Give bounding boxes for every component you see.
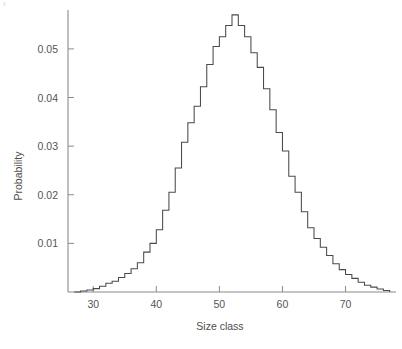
x-axis: 3040506070 Size class	[68, 286, 396, 332]
y-tick-group	[68, 49, 74, 243]
x-tick-label-group: 3040506070	[87, 298, 351, 310]
x-tick-group	[93, 286, 345, 292]
y-tick-label-0.01: 0.01	[38, 237, 59, 249]
x-axis-title: Size class	[196, 320, 243, 332]
distribution-step-curve	[74, 15, 389, 292]
y-tick-label-0.03: 0.03	[38, 140, 59, 152]
y-axis: 0.010.020.030.040.05 Probability	[12, 10, 74, 292]
y-tick-label-0.04: 0.04	[38, 92, 59, 104]
x-tick-label-70: 70	[340, 298, 352, 310]
x-tick-label-50: 50	[214, 298, 226, 310]
y-axis-title: Probability	[12, 151, 24, 201]
y-tick-label-0.02: 0.02	[38, 189, 59, 201]
x-tick-label-60: 60	[277, 298, 289, 310]
x-tick-label-30: 30	[87, 298, 99, 310]
chart-figure: ‖ 0.010.020.030.040.05 Probability 30405…	[0, 0, 402, 349]
y-tick-label-0.05: 0.05	[38, 43, 59, 55]
y-tick-label-group: 0.010.020.030.040.05	[38, 43, 59, 249]
x-tick-label-40: 40	[150, 298, 162, 310]
probability-size-class-step-chart: 0.010.020.030.040.05 Probability 3040506…	[0, 0, 402, 349]
